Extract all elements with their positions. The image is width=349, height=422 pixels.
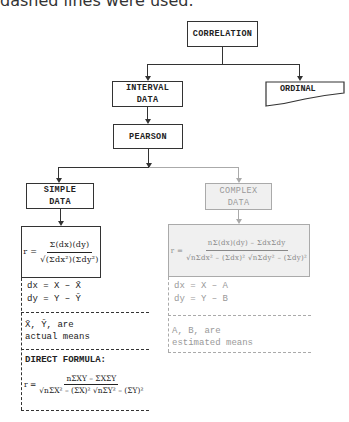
node-simple-label-1: SIMPLE bbox=[44, 184, 76, 196]
connector bbox=[60, 209, 61, 221]
formula-numerator: nΣXY – ΣXΣY bbox=[64, 374, 118, 385]
simple-dy-def: dy = Y – Ȳ bbox=[27, 294, 81, 304]
formula-lhs: r = bbox=[23, 246, 37, 258]
simple-formula-box: r = Σ(dx)(dy) √(Σdx²)(Σdy²) bbox=[21, 226, 101, 278]
direct-formula: r = nΣXY – ΣXΣY √nΣX² – (ΣX)² √nΣY² – (Σ… bbox=[24, 374, 143, 395]
node-interval-label-2: DATA bbox=[137, 94, 159, 106]
connector bbox=[238, 167, 239, 178]
node-ordinal-label: ORDINAL bbox=[280, 84, 316, 94]
node-interval-data: INTERVAL DATA bbox=[112, 81, 183, 107]
formula-denominator: √nΣdx² – (Σdx)² √nΣdy² – (Σdy)² bbox=[186, 251, 307, 264]
formula-numerator: Σ(dx)(dy) bbox=[47, 239, 91, 253]
simple-formula: r = Σ(dx)(dy) √(Σdx²)(Σdy²) bbox=[23, 239, 98, 266]
node-simple-data: SIMPLE DATA bbox=[26, 183, 94, 209]
formula-fraction: nΣ(dx)(dy) – ΣdxΣdy √nΣdx² – (Σdx)² √nΣd… bbox=[186, 237, 307, 264]
complex-formula-box: r = nΣ(dx)(dy) – ΣdxΣdy √nΣdx² – (Σdx)² … bbox=[168, 224, 310, 277]
formula-fraction: Σ(dx)(dy) √(Σdx²)(Σdy²) bbox=[40, 239, 98, 266]
formula-denominator: √nΣX² – (ΣX)² √nΣY² – (ΣY)² bbox=[39, 385, 143, 395]
formula-numerator: nΣ(dx)(dy) – ΣdxΣdy bbox=[206, 237, 288, 251]
complex-dx-def: dx = X – A bbox=[174, 281, 228, 291]
complex-formula: r = nΣ(dx)(dy) – ΣdxΣdy √nΣdx² – (Σdx)² … bbox=[171, 237, 307, 264]
simple-means-line2: actual means bbox=[25, 332, 90, 342]
node-complex-data: COMPLEX DATA bbox=[205, 183, 272, 210]
node-complex-label-2: DATA bbox=[228, 197, 250, 209]
divider bbox=[21, 410, 149, 411]
connector bbox=[149, 167, 239, 168]
node-pearson: PEARSON bbox=[113, 124, 183, 149]
formula-denominator: √(Σdx²)(Σdy²) bbox=[40, 253, 98, 266]
divider bbox=[21, 349, 149, 350]
node-simple-label-2: DATA bbox=[49, 196, 71, 208]
simple-dx-def: dx = X – X̄ bbox=[27, 281, 81, 291]
connector bbox=[147, 64, 300, 65]
complex-means-line2: estimated means bbox=[172, 338, 253, 348]
connector bbox=[58, 167, 59, 178]
node-interval-label-1: INTERVAL bbox=[126, 82, 169, 94]
node-complex-label-1: COMPLEX bbox=[220, 185, 258, 197]
complex-means-line1: A, B, are bbox=[172, 326, 221, 336]
node-pearson-label: PEARSON bbox=[129, 131, 167, 143]
caption-text: dashed lines were used. bbox=[0, 0, 193, 10]
divider bbox=[168, 315, 311, 316]
node-correlation-label: CORRELATION bbox=[193, 28, 252, 40]
divider bbox=[168, 352, 311, 353]
simple-means-line1: X̄, Ȳ, are bbox=[25, 320, 74, 330]
simple-dashed-border bbox=[21, 278, 22, 410]
divider bbox=[21, 312, 149, 313]
direct-formula-label: DIRECT FORMULA: bbox=[25, 355, 106, 365]
complex-dy-def: dy = Y – B bbox=[174, 294, 228, 304]
node-correlation: CORRELATION bbox=[187, 21, 258, 47]
formula-fraction: nΣXY – ΣXΣY √nΣX² – (ΣX)² √nΣY² – (ΣY)² bbox=[39, 374, 143, 395]
formula-lhs: r = bbox=[24, 380, 36, 389]
connector bbox=[147, 107, 148, 119]
connector bbox=[222, 47, 223, 64]
formula-lhs: r = bbox=[171, 245, 183, 257]
connector bbox=[58, 167, 149, 168]
